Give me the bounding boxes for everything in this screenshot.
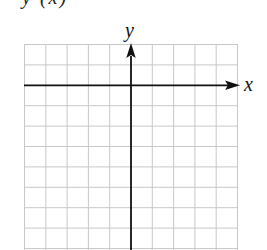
x-axis-label: x (244, 74, 253, 94)
y-axis-label: y (125, 20, 134, 40)
y-axis-arrow-icon (126, 43, 135, 58)
